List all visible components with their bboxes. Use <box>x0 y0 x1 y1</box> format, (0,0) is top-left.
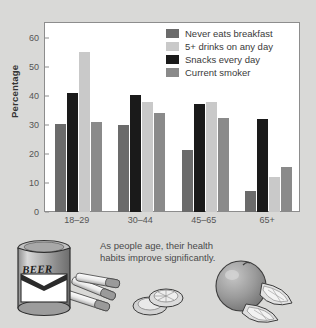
legend-label: Never eats breakfast <box>185 28 273 39</box>
bar <box>245 191 256 212</box>
y-axis-tick-mark <box>45 37 49 38</box>
y-axis-tick-label: 40 <box>29 91 45 101</box>
legend-label: Current smoker <box>185 67 250 78</box>
lime-slices-icon <box>133 289 183 315</box>
bar <box>91 122 102 212</box>
y-axis-tick-label: 10 <box>29 178 45 188</box>
legend-swatch <box>166 42 179 51</box>
bar <box>182 150 193 213</box>
y-axis-tick-label: 50 <box>29 62 45 72</box>
bar <box>142 102 153 212</box>
illustration-group <box>0 228 316 328</box>
y-axis-tick-mark <box>45 182 49 183</box>
bar <box>118 125 129 212</box>
y-axis-tick-mark <box>45 212 49 213</box>
legend-swatch <box>166 55 179 64</box>
x-axis-tick-label: 30–44 <box>128 215 153 225</box>
y-axis-title: Percentage <box>9 65 20 118</box>
bar <box>154 113 165 212</box>
y-axis-tick-mark <box>45 124 49 125</box>
legend-label: 5+ drinks on any day <box>185 41 273 52</box>
bar <box>55 124 66 212</box>
bar-group <box>55 23 102 212</box>
bar <box>269 177 280 212</box>
cigarettes-icon <box>62 273 120 312</box>
legend-item: Snacks every day <box>166 53 273 66</box>
bar <box>206 102 217 212</box>
y-axis-tick-mark <box>45 153 49 154</box>
legend-swatch <box>166 68 179 77</box>
y-axis-tick-label: 20 <box>29 149 45 159</box>
orange-icon <box>216 261 266 311</box>
bar <box>79 52 90 212</box>
x-axis-tick-label: 45–65 <box>191 215 216 225</box>
bar <box>194 104 205 212</box>
x-axis-tick-label: 65+ <box>260 215 275 225</box>
legend-swatch <box>166 29 179 38</box>
bar <box>218 118 229 213</box>
y-axis-tick-mark <box>45 95 49 96</box>
figure-panel: Percentage 0102030405060 Never eats brea… <box>0 0 316 328</box>
bar <box>67 93 78 212</box>
x-axis-tick-label: 18–29 <box>64 215 89 225</box>
legend-item: 5+ drinks on any day <box>166 40 273 53</box>
chart-legend: Never eats breakfast5+ drinks on any day… <box>166 27 273 79</box>
y-axis-tick-label: 30 <box>29 120 45 130</box>
legend-item: Current smoker <box>166 66 273 79</box>
bar <box>281 167 292 212</box>
bar-group <box>118 23 165 212</box>
legend-item: Never eats breakfast <box>166 27 273 40</box>
bar <box>130 95 141 212</box>
beer-can-label: BEER <box>22 262 53 275</box>
y-axis-tick-label: 0 <box>34 207 45 217</box>
y-axis-tick-mark <box>45 66 49 67</box>
y-axis-tick-label: 60 <box>29 33 45 43</box>
bar <box>257 119 268 212</box>
legend-label: Snacks every day <box>185 54 260 65</box>
beer-can-icon <box>18 241 70 316</box>
